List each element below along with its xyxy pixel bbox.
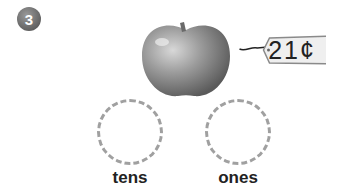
problem-number-badge: 3 (17, 7, 41, 31)
tens-answer-circle[interactable] (97, 99, 163, 165)
apple-image (138, 20, 234, 98)
tens-label: tens (90, 168, 170, 188)
price-tag-text: 21¢ (262, 34, 322, 66)
ones-label: ones (198, 168, 278, 188)
ones-answer-circle[interactable] (205, 99, 271, 165)
